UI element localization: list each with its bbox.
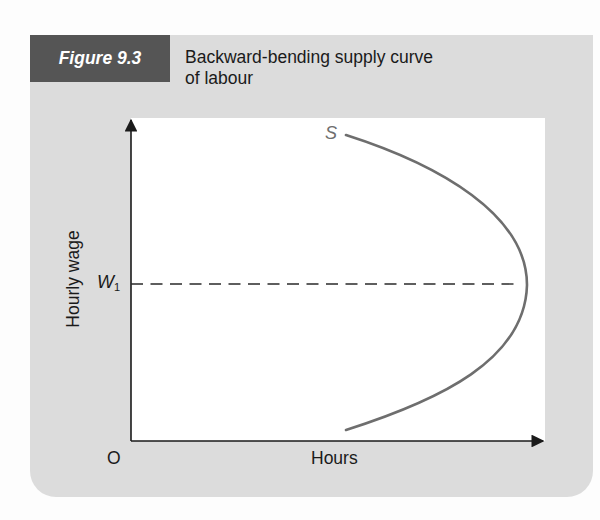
supply-curve-label: S	[325, 123, 337, 144]
w1-label: W1	[97, 272, 120, 293]
supply-curve	[346, 135, 527, 430]
origin-label: O	[107, 448, 121, 469]
w1-label-subscript: 1	[114, 281, 120, 293]
x-axis-label: Hours	[311, 448, 358, 469]
w1-label-main: W	[97, 272, 114, 292]
chart-canvas	[0, 0, 600, 520]
y-axis-label: Hourly wage	[63, 230, 84, 327]
